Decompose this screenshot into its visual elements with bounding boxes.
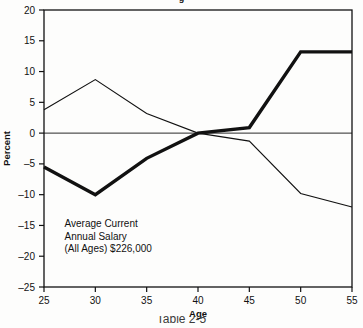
chart-annotation: Average CurrentAnnual Salary(All Ages) $…: [65, 218, 153, 254]
y-tick-label: –20: [18, 251, 35, 262]
cut-off-caption-text: Table 2-5: [157, 316, 206, 325]
x-tick-label: 45: [244, 295, 256, 306]
y-tick-label: 20: [24, 5, 36, 16]
cut-off-caption: Table 2-5: [0, 316, 363, 328]
y-tick-label: 0: [29, 128, 35, 139]
average-salary-note-line: Average Current: [65, 218, 138, 229]
y-tick-label: –15: [18, 220, 35, 231]
y-tick-label: –10: [18, 189, 35, 200]
average-salary-note-line: (All Ages) $226,000: [65, 243, 153, 254]
y-axis-title: Percent: [1, 130, 12, 166]
series-line-thin: [44, 80, 352, 207]
x-tick-label: 35: [141, 295, 153, 306]
x-axis-ticks: 25303540455055: [38, 287, 358, 306]
x-tick-label: 50: [295, 295, 307, 306]
y-tick-label: –25: [18, 282, 35, 293]
y-tick-label: 15: [24, 35, 36, 46]
average-salary-note-line: Annual Salary: [65, 231, 127, 242]
y-tick-label: 10: [24, 66, 36, 77]
series-line-thick: [44, 52, 352, 195]
x-tick-label: 55: [346, 295, 358, 306]
x-tick-label: 40: [192, 295, 204, 306]
y-tick-label: 5: [29, 97, 35, 108]
data-series-group: [44, 52, 352, 207]
chart-screenshot: g 20151050–5–10–15–20–25 25303540455055 …: [0, 0, 363, 328]
x-tick-label: 25: [38, 295, 50, 306]
line-chart: 20151050–5–10–15–20–25 25303540455055 Av…: [0, 0, 363, 328]
x-tick-label: 30: [90, 295, 102, 306]
y-tick-label: –5: [24, 158, 36, 169]
y-axis-ticks: 20151050–5–10–15–20–25: [18, 5, 44, 293]
